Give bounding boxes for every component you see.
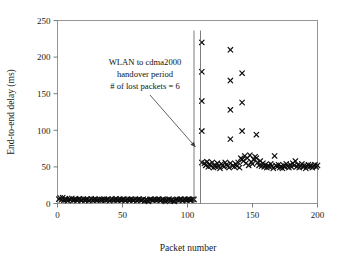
x-axis-title: Packet number bbox=[160, 243, 218, 253]
annotation-line-2: handover period bbox=[117, 69, 174, 79]
plot-background bbox=[0, 0, 341, 257]
x-tick-label: 0 bbox=[55, 210, 60, 220]
y-tick-label: 0 bbox=[46, 199, 51, 209]
y-tick-label: 100 bbox=[37, 126, 51, 136]
annotation-line-1: WLAN to cdma2000 bbox=[109, 57, 182, 67]
y-tick-label: 150 bbox=[37, 89, 51, 99]
scatter-plot: 050100150200 050100150200250 Packet numb… bbox=[0, 0, 341, 257]
x-tick-label: 100 bbox=[181, 210, 195, 220]
y-tick-label: 50 bbox=[42, 162, 52, 172]
chart-figure: 050100150200 050100150200250 Packet numb… bbox=[0, 0, 341, 257]
y-tick-label: 250 bbox=[37, 16, 51, 26]
x-tick-label: 50 bbox=[118, 210, 128, 220]
y-axis-title: End-to-end delay (ms) bbox=[6, 69, 17, 154]
annotation-line-3: # of lost packets = 6 bbox=[110, 81, 180, 91]
x-tick-label: 200 bbox=[311, 210, 325, 220]
x-tick-label: 150 bbox=[246, 210, 260, 220]
y-tick-label: 200 bbox=[37, 52, 51, 62]
